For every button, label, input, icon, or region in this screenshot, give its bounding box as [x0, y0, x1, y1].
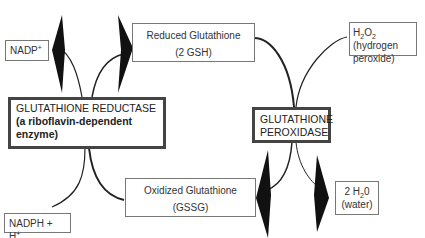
water-box: 2 H20 (water) [335, 181, 379, 215]
arrow-left-nadp-icon [52, 15, 65, 93]
arrow-right-gsh-icon [118, 15, 133, 93]
glutathione-peroxidase-line1: GLUTATHIONE [260, 113, 323, 126]
arrow-left-gssg-icon [256, 150, 271, 238]
reduced-glutathione-label: Reduced Glutathione [133, 27, 254, 44]
curve-gssg [89, 148, 124, 200]
nadp-box: NADP+ [5, 40, 49, 61]
hydrogen-peroxide-box: H2O2 (hydrogen peroxide) [349, 22, 417, 56]
water-label: (water) [336, 198, 378, 211]
oxidized-glutathione-formula: (GSSG) [126, 199, 255, 216]
glutathione-reductase-name: GLUTATHIONE REDUCTASE [16, 102, 158, 115]
curve-gsh-to-peroxidase [254, 38, 294, 107]
reduced-glutathione-formula: (2 GSH) [133, 44, 254, 61]
water-formula: 2 H20 [336, 185, 378, 198]
glutathione-peroxidase-box: GLUTATHIONE PEROXIDASE [252, 107, 331, 143]
curve-reduced-gsh [92, 54, 124, 97]
hydrogen-peroxide-label: H2O2 (hydrogen [353, 26, 413, 52]
reduced-glutathione-box: Reduced Glutathione (2 GSH) [132, 23, 255, 62]
curve-peroxidase-gssg [267, 142, 292, 190]
oxidized-glutathione-label: Oxidized Glutathione [126, 182, 255, 199]
glutathione-reductase-box: GLUTATHIONE REDUCTASE (a riboflavin-depe… [8, 97, 166, 149]
nadph-box: NADPH + H+ [4, 213, 71, 233]
curve-nadph [52, 148, 85, 207]
curve-h2o2 [296, 37, 347, 107]
arrow-right-water-icon [314, 155, 329, 232]
hydrogen-peroxide-desc: peroxide) [353, 52, 413, 65]
glutathione-peroxidase-line2: PEROXIDASE [260, 126, 323, 139]
glutathione-reductase-note: (a riboflavin-dependent enzyme) [16, 115, 158, 141]
nadp-label: NADP [10, 45, 38, 56]
oxidized-glutathione-box: Oxidized Glutathione (GSSG) [125, 178, 256, 217]
